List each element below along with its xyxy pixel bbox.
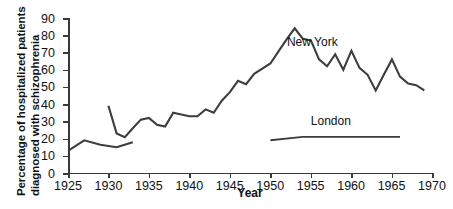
y-axis-title-line-2: diagnosed with schizophrenia (29, 35, 41, 196)
x-tick-1970 (432, 173, 434, 178)
x-tick-1940 (189, 173, 191, 178)
y-tick-label-20: 20 (41, 132, 55, 146)
y-tick-label-90: 90 (41, 12, 55, 26)
y-axis-title-line-1: Percentage of hospitalized patients (15, 7, 27, 197)
series-line-london (270, 137, 400, 140)
x-tick-1945 (230, 173, 232, 178)
x-tick-1935 (149, 173, 151, 178)
y-tick-label-30: 30 (41, 115, 55, 129)
x-tick-1965 (392, 173, 394, 178)
x-axis-title: Year (68, 186, 432, 200)
x-tick-1925 (68, 173, 70, 178)
series-label-london: London (311, 114, 351, 128)
chart-figure: Percentage of hospitalized patients diag… (0, 0, 453, 209)
y-tick-label-40: 40 (41, 98, 55, 112)
x-tick-1955 (311, 173, 313, 178)
y-tick-label-60: 60 (41, 63, 55, 77)
series-line-new-york-early (68, 140, 133, 151)
y-tick-label-80: 80 (41, 29, 55, 43)
x-tick-1950 (270, 173, 272, 178)
y-tick-label-10: 10 (41, 149, 55, 163)
x-tick-1930 (108, 173, 110, 178)
series-line-new-york (108, 28, 424, 137)
y-tick-label-50: 50 (41, 80, 55, 94)
series-layer (68, 18, 432, 173)
x-tick-1960 (351, 173, 353, 178)
y-tick-label-70: 70 (41, 46, 55, 60)
series-label-new-york: New York (287, 35, 338, 49)
plot-area: 0102030405060708090 19251930193519401945… (68, 18, 432, 173)
y-axis-title: Percentage of hospitalized patients diag… (0, 0, 40, 209)
